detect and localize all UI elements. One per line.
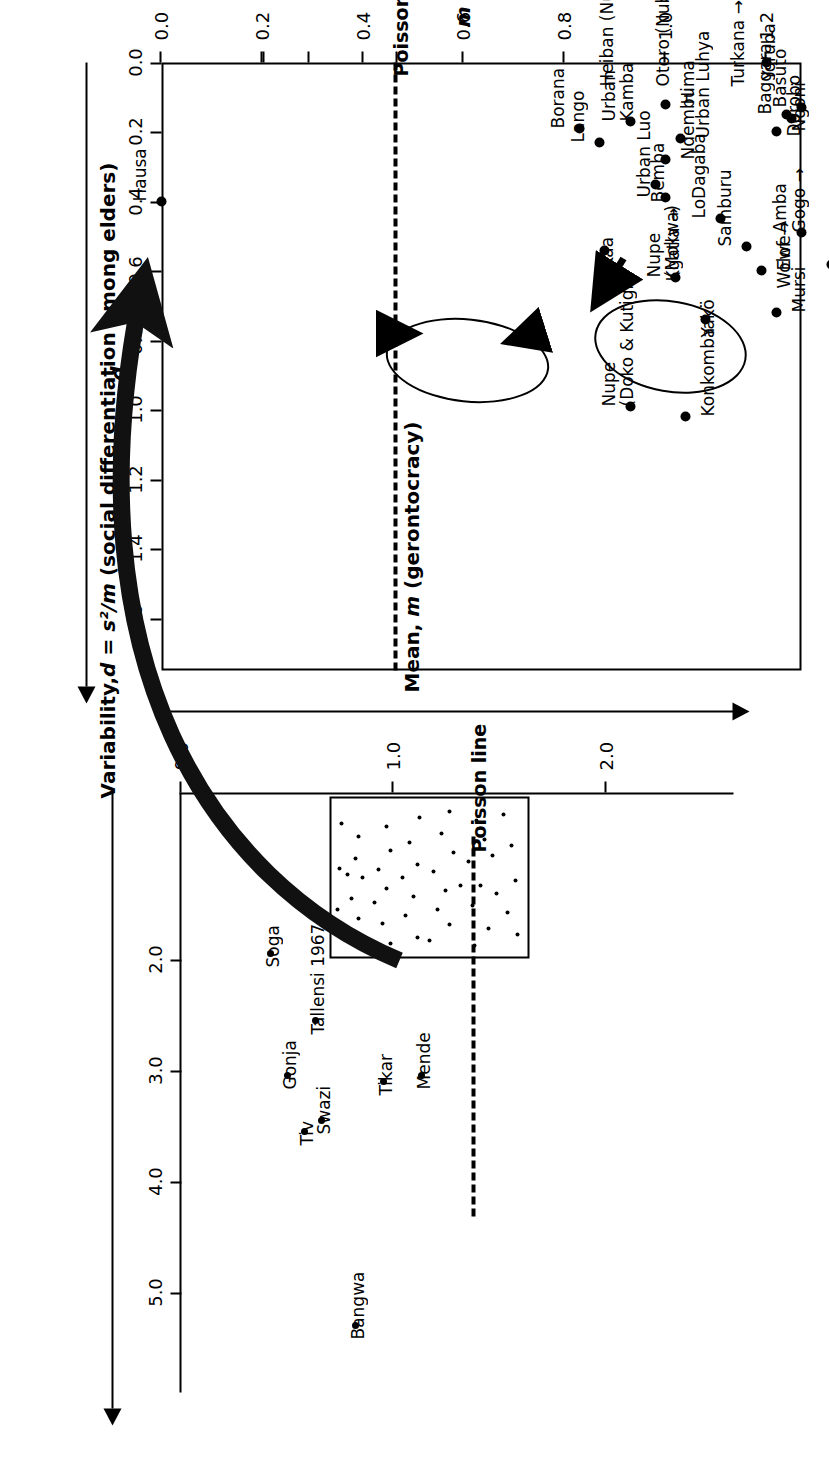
lower-x-title-eq: =: [95, 631, 119, 662]
upper-point-ndembu: [660, 154, 670, 164]
inset-cloud-point: [400, 875, 404, 879]
upper-ytick-0.2: [260, 51, 262, 62]
lower-x-axis-line: [179, 792, 181, 1392]
upper-xticklabel-1.6: 1.6: [124, 604, 145, 633]
lower-overview-panel: Poisson line 2.03.04.05.0 0.01.02.0 Soga…: [0, 740, 829, 1461]
upper-yticklabel-0.8: 0.8: [554, 11, 575, 40]
upper-ytick-0.8: [562, 51, 564, 62]
inset-cloud-point: [513, 878, 517, 882]
lower-y-axis-line: [179, 792, 733, 794]
figure-rotator: Poisson line 0.00.20.40.60.81.01.21.41.6…: [0, 0, 829, 1461]
inset-cloud-point: [415, 862, 419, 866]
inset-cloud-point: [443, 888, 447, 892]
lower-x-axis-rail: [111, 792, 113, 1408]
inset-cloud-point: [472, 943, 476, 947]
upper-xticklabel-0.6: 0.6: [124, 256, 145, 285]
upper-point-konkomba: [680, 411, 690, 421]
upper-xticklabel-0.8: 0.8: [124, 326, 145, 355]
lower-x-title-m: m: [95, 583, 119, 604]
lower-label-mende: Mende: [415, 1032, 433, 1089]
lower-xtick-2.0: [170, 959, 181, 961]
upper-label-bemba: Bemba: [649, 142, 667, 202]
upper-poisson-line-label: Poisson line: [389, 0, 411, 76]
upper-label-basuto: Basuto: [771, 48, 789, 107]
upper-ytick-0.4: [361, 51, 363, 62]
inset-cloud-point: [451, 850, 455, 854]
inset-cloud-point: [417, 815, 421, 819]
inset-cloud-point: [515, 932, 519, 936]
upper-label-kaa: Kaa: [598, 236, 616, 268]
upper-label-borana: Borana: [549, 67, 567, 128]
inset-cloud-point: [486, 926, 490, 930]
inset-cloud-point: [415, 935, 419, 939]
lower-x-axis-title: Variability,d = s²/m (social differentia…: [95, 162, 119, 798]
inset-cloud-point: [431, 869, 435, 873]
lower-x-axis-arrowhead: [103, 1408, 121, 1425]
upper-point-ngoni: [771, 126, 781, 136]
upper-x-axis-arrowhead: [77, 686, 95, 703]
inset-cloud-point: [356, 834, 360, 838]
upper-point-lodagaba: [715, 213, 725, 223]
inset-cloud-point: [494, 891, 498, 895]
inset-cloud-point: [501, 812, 505, 816]
inset-cloud-point: [349, 896, 353, 900]
upper-label-amba: Amba: [771, 183, 789, 232]
upper-label-gogo: Gogo →: [790, 167, 808, 231]
upper-xticklabel-0.2: 0.2: [124, 117, 145, 146]
upper-xtick-1.4: [150, 548, 161, 550]
inset-cloud-point: [474, 818, 478, 822]
lower-xtick-5.0: [170, 1292, 181, 1294]
lower-label-tiv: Tiv: [298, 1120, 316, 1145]
inset-cloud-point: [356, 916, 360, 920]
lower-yticklabel-0.0: 0.0: [171, 741, 192, 770]
upper-xtick-0.8: [150, 340, 161, 342]
lower-label-tallensi-1967: Tallensi 1967: [309, 923, 327, 1034]
lower-x-title-paren: (social differentiation among elders): [95, 162, 119, 582]
inset-cloud-point: [372, 900, 376, 904]
inset-cloud-point: [403, 913, 407, 917]
upper-xtick-0.6: [150, 270, 161, 272]
upper-xticklabel-1.2: 1.2: [124, 465, 145, 494]
inset-cloud-point: [345, 872, 349, 876]
inset-cloud-point: [388, 941, 392, 945]
upper-xticklabel-1.0: 1.0: [124, 395, 145, 424]
inset-cloud-point: [466, 859, 470, 863]
lower-x-title-s2: s²/: [95, 603, 119, 631]
lower-y-title-paren: (gerontocracy): [399, 421, 423, 595]
upper-xticklabel-1.4: 1.4: [124, 534, 145, 563]
inset-cloud-point: [339, 821, 343, 825]
lower-ytick-2.0: [604, 781, 606, 792]
upper-xticklabel-0.0: 0.0: [124, 48, 145, 77]
lower-y-axis-rail: [161, 710, 733, 712]
inset-cloud-point: [435, 907, 439, 911]
inset-cloud-point: [384, 886, 388, 890]
upper-ytick-1.0: [307, 51, 309, 62]
inset-cloud-point: [505, 910, 509, 914]
upper-point-lango: [594, 137, 604, 147]
upper-label-kgatla: Kgatla →: [664, 207, 682, 281]
upper-x-axis-rail: [85, 62, 87, 686]
upper-point-basuto: [796, 102, 806, 112]
lower-label-soga: Soga: [264, 925, 282, 967]
lower-y-axis-title: Mean, m (gerontocracy): [399, 421, 423, 692]
upper-yticklabel-0.0: 0.0: [151, 11, 172, 40]
inset-cloud-point: [482, 837, 486, 841]
lower-x-title-main: Variability,: [95, 676, 119, 798]
upper-label-turkana: Turkana →: [730, 0, 748, 86]
inset-cloud-point: [439, 831, 443, 835]
lower-ytick-1.0: [391, 781, 393, 792]
upper-label-hima: Hima: [679, 59, 697, 103]
inset-cloud-point: [478, 883, 482, 887]
upper-xtick-1.6: [150, 618, 161, 620]
inset-cloud-point: [447, 809, 451, 813]
upper-label-lango: Lango: [569, 90, 587, 142]
inset-cloud-point: [427, 938, 431, 942]
inset-cloud-point: [345, 932, 349, 936]
inset-cloud-point: [335, 907, 339, 911]
upper-point-samburu: [741, 241, 751, 251]
lower-x-title-d: d: [95, 662, 119, 676]
inset-cloud-point: [353, 856, 357, 860]
upper-point-borana: [574, 123, 584, 133]
upper-label-otoro-nuba-: Otoro (Nuba) →: [654, 0, 672, 86]
inset-cloud-point: [384, 824, 388, 828]
